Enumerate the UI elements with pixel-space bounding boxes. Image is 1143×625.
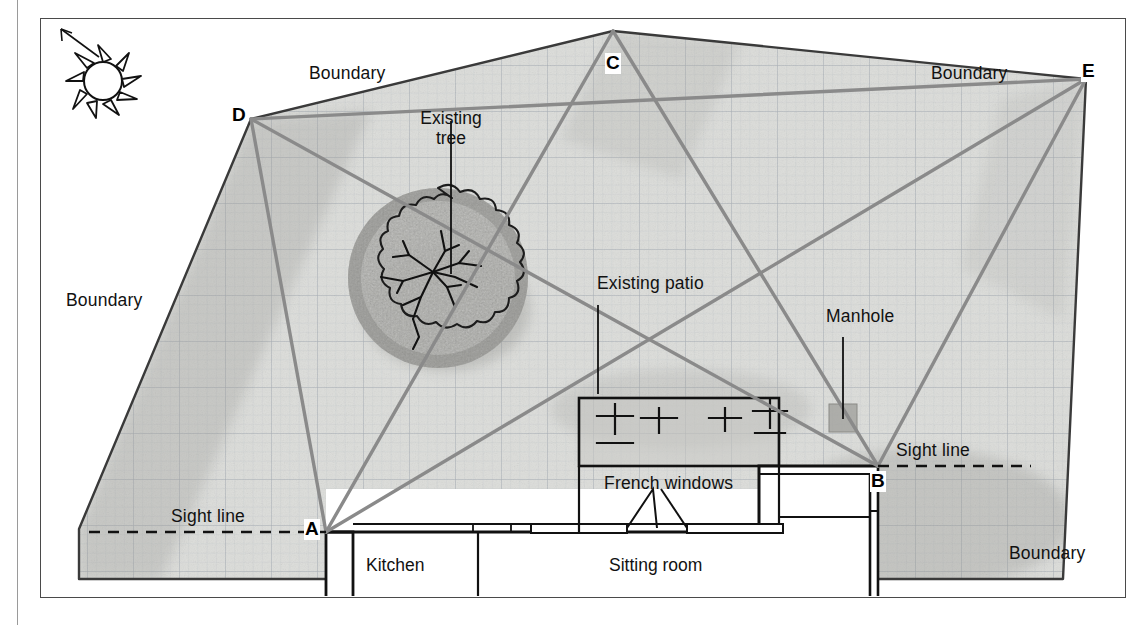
survey-point-label-c: C — [605, 53, 621, 74]
north-arrow-icon — [61, 29, 99, 57]
existing-tree-label-line2: tree — [403, 129, 499, 149]
boundary-label-top-left: Boundary — [309, 64, 386, 83]
survey-point-label-b: B — [870, 471, 886, 492]
boundary-label-top-right: Boundary — [931, 64, 1008, 83]
existing-tree-label: Existing tree — [403, 109, 499, 148]
existing-patio — [579, 398, 787, 466]
figure-page: Boundary Boundary Boundary Boundary Exis… — [0, 0, 1143, 625]
sight-line-label-right: Sight line — [896, 441, 970, 460]
page-margin-rule — [17, 0, 18, 625]
survey-point-label-a: A — [304, 519, 320, 540]
survey-point-label-e: E — [1081, 61, 1096, 82]
manhole-label: Manhole — [826, 307, 895, 326]
french-windows-label: French windows — [604, 474, 733, 493]
room-label-sitting-room: Sitting room — [609, 556, 702, 575]
existing-patio-label: Existing patio — [597, 274, 704, 293]
room-label-kitchen: Kitchen — [366, 556, 424, 575]
boundary-label-right: Boundary — [1009, 544, 1086, 563]
boundary-label-left: Boundary — [66, 291, 143, 310]
survey-point-label-d: D — [231, 105, 247, 126]
plan-figure-frame: Boundary Boundary Boundary Boundary Exis… — [40, 18, 1126, 598]
existing-tree-label-line1: Existing — [403, 109, 499, 129]
sight-line-label-left: Sight line — [171, 507, 245, 526]
sun-icon — [66, 45, 141, 118]
